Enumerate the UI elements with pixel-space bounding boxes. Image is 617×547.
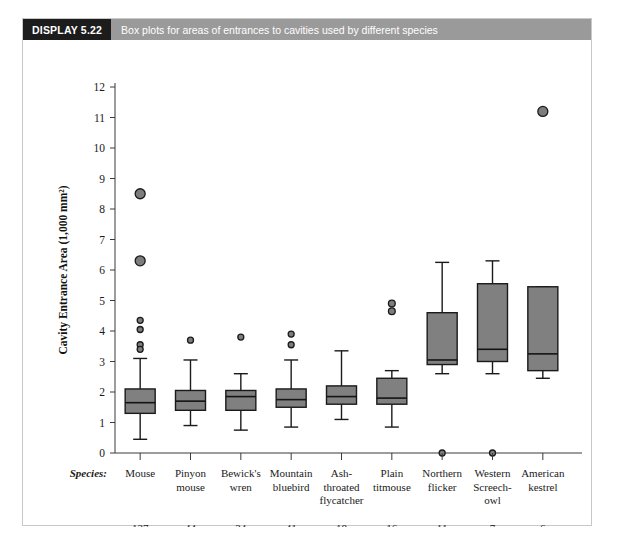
outlier-point [538,106,548,116]
category-label-group: MousePinyonmouseBewick'swrenMountainblue… [125,467,565,506]
y-tick-label: 7 [99,234,105,246]
box-iqr [276,389,306,407]
y-tick-label: 0 [99,447,105,459]
x-tick-group [140,453,543,460]
box-group [125,261,558,439]
outlier-point [388,308,395,315]
box-plot-item [327,351,357,420]
category-label-line: Bewick's [221,467,261,479]
y-tick-label: 5 [99,295,105,307]
category-label: WesternScreech-owl [473,467,512,506]
y-tick-label: 10 [94,142,106,154]
outlier-point [137,346,143,352]
box-iqr [327,386,357,404]
y-tick-label: 6 [99,264,105,276]
y-tick-label: 9 [99,173,105,185]
category-label-line: owl [484,494,501,506]
category-label-line: Pinyon [175,467,207,479]
category-label: Americankestrel [521,467,565,493]
display-number-label: DISPLAY 5.22 [23,19,111,40]
outlier-point [388,300,395,307]
display-card: DISPLAY 5.22 Box plots for areas of entr… [22,18,592,526]
n-value: 11 [437,522,448,527]
outlier-point [188,337,194,343]
category-label-line: Northern [422,467,462,479]
row-header-group: Species:n: [70,467,107,527]
category-label: Bewick'swren [221,467,261,493]
box-iqr [226,390,256,410]
category-label-line: flicker [428,481,457,493]
y-tick-label: 12 [94,81,106,93]
category-label-line: titmouse [373,481,411,493]
display-caption-text: Box plots for areas of entrances to cavi… [111,19,591,40]
box-iqr [427,313,457,365]
category-label: Ash-throatedflycatcher [320,467,364,506]
y-tick-label: 2 [99,386,105,398]
category-label-line: bluebird [273,481,310,493]
box-plot-item [176,360,206,426]
box-plot-item [528,287,558,379]
outlier-point [238,334,244,340]
category-label: Pinyonmouse [175,467,207,493]
category-label: Mouse [125,467,155,479]
box-plot-item [276,360,306,427]
n-value: 7 [490,522,496,527]
outlier-point [137,326,143,332]
n-value: 6 [540,522,546,527]
n-value: 18 [336,522,348,527]
category-label-line: mouse [176,481,205,493]
box-iqr [125,389,155,413]
y-tick-label: 11 [94,112,105,124]
box-plot-item [377,371,407,427]
category-label: Northernflicker [422,467,462,493]
n-value: 16 [386,522,398,527]
box-plot-item [226,374,256,430]
category-label-line: Plain [381,467,404,479]
y-tick-label: 8 [99,203,105,215]
box-plot-item [125,358,155,439]
y-tick-group: 0123456789101112 [94,81,116,459]
n-value: 127 [132,522,149,527]
category-label: Plaintitmouse [373,467,411,493]
n-value: 41 [286,522,297,527]
category-label-line: American [521,467,565,479]
box-plot-item [478,261,508,374]
outlier-point [288,342,294,348]
category-label-line: Mountain [270,467,313,479]
y-tick-label: 4 [99,325,105,337]
boxplot-svg: 0123456789101112 Cavity Entrance Area (1… [23,40,593,527]
category-label-line: wren [230,481,252,493]
y-axis-title: Cavity Entrance Area (1,000 mm²) [57,185,70,354]
outlier-point [288,331,294,337]
y-tick-label: 1 [99,417,105,429]
outlier-point [137,317,143,323]
category-label-line: Western [475,467,511,479]
display-header-bar: DISPLAY 5.22 Box plots for areas of entr… [23,19,591,40]
category-label-line: Ash- [331,467,353,479]
n-value: 44 [185,522,197,527]
y-tick-label: 3 [99,356,105,368]
category-label-line: kestrel [528,481,557,493]
y-axis-title-text: Cavity Entrance Area (1,000 mm²) [57,185,70,354]
species-row-header: Species: [70,467,107,479]
n-value: 24 [235,522,247,527]
box-iqr [528,287,558,371]
category-label-line: Screech- [473,481,512,493]
n-row-header: n: [97,522,107,527]
category-label-line: Mouse [125,467,155,479]
category-label-line: throated [323,481,360,493]
category-label-line: flycatcher [320,494,364,506]
outlier-point [135,256,145,266]
plot-area: 0123456789101112 Cavity Entrance Area (1… [23,40,591,525]
outlier-point [135,189,145,199]
box-iqr [377,378,407,404]
box-plot-item [427,262,457,373]
n-row-group: 12744244118161176 [132,522,546,527]
category-label: Mountainbluebird [270,467,313,493]
